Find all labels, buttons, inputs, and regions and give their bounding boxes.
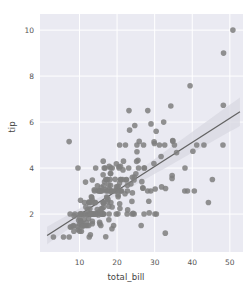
- plot-panel: [40, 14, 243, 252]
- scatter-points: [40, 14, 243, 252]
- x-axis-label: total_bill: [0, 272, 252, 282]
- scatter-plot-figure: 1020304050 246810 total_bill tip: [0, 0, 252, 303]
- x-tick-label: 20: [112, 258, 122, 267]
- x-tick-label: 10: [75, 258, 85, 267]
- x-tick-label: 30: [150, 258, 160, 267]
- y-tick-label: 6: [14, 118, 34, 127]
- y-tick-label: 8: [14, 72, 34, 81]
- x-tick-label: 50: [225, 258, 235, 267]
- y-tick-label: 10: [14, 26, 34, 35]
- y-axis-label: tip: [7, 107, 17, 147]
- x-tick-label: 40: [187, 258, 197, 267]
- y-tick-label: 2: [14, 210, 34, 219]
- y-tick-label: 4: [14, 164, 34, 173]
